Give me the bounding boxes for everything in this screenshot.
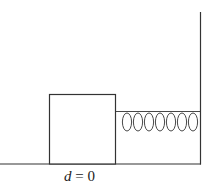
spring [116,112,201,132]
mass-spring-diagram [0,0,211,190]
displacement-value: 0 [87,168,95,184]
equals-sign: = [72,168,88,184]
block [50,95,116,165]
displacement-label: d = 0 [64,168,95,185]
displacement-variable: d [64,168,72,184]
